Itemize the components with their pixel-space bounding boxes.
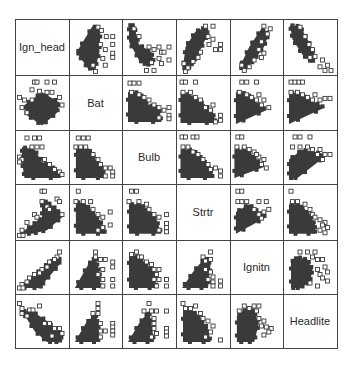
data-point [179,169,183,173]
data-point [56,218,60,222]
data-point [206,163,210,167]
data-point [129,335,133,339]
data-point [137,200,141,204]
data-point [160,62,164,66]
data-point [91,153,95,157]
data-point [257,304,261,308]
data-point [20,312,24,316]
data-point [235,145,239,149]
data-point [94,255,98,259]
data-point [127,210,131,214]
data-point [194,80,198,84]
data-point [142,95,146,99]
data-point [94,250,98,254]
data-point [21,164,25,168]
data-point [81,326,85,330]
data-point [81,232,85,236]
data-point [195,135,199,139]
data-point [235,334,239,338]
dense-point-cloud [25,92,60,125]
data-point [316,284,320,288]
data-point [45,80,49,84]
data-point [155,309,159,313]
data-point [247,65,251,69]
data-point [259,40,263,44]
data-point [247,148,251,152]
data-point [219,169,223,173]
data-point [98,258,102,262]
data-point [30,145,34,149]
data-point [111,55,115,59]
data-point [162,50,166,54]
data-point [311,98,315,102]
data-point [316,153,320,157]
data-point [255,309,259,313]
data-point [53,168,57,172]
data-point [20,106,24,110]
data-point [81,176,85,180]
data-point [151,120,155,124]
data-point [46,276,50,280]
data-point [152,213,156,217]
data-point [214,166,218,170]
data-point [39,285,43,289]
data-point [53,98,57,102]
scatter-cell [181,302,223,345]
data-point [36,332,40,336]
data-point [74,168,78,172]
data-point [20,228,24,232]
data-point [86,319,90,323]
data-point [308,207,312,211]
data-point [33,221,37,225]
data-point [60,173,64,177]
data-point [242,68,246,72]
data-point [101,215,105,219]
data-point [145,202,149,206]
data-point [91,207,95,211]
data-point [157,45,161,49]
data-point [18,302,22,306]
data-point [130,90,134,94]
data-point [242,145,246,149]
data-point [298,256,302,260]
data-point [179,98,183,102]
data-point [157,116,161,120]
data-point [262,51,266,55]
data-point [98,335,102,339]
data-point [326,270,330,274]
data-point [98,163,102,167]
data-point [97,268,101,272]
data-point [237,309,241,313]
data-point [219,118,223,122]
dense-point-cloud [289,150,328,179]
data-point [18,95,22,99]
scatter-cell [182,250,223,290]
data-point [108,210,112,214]
data-point [242,119,246,123]
data-point [135,250,139,254]
data-point [201,317,205,321]
data-point [296,286,300,290]
data-point [181,332,185,336]
data-point [296,90,300,94]
data-point [150,309,154,313]
data-point [54,267,58,271]
data-point [98,35,102,39]
data-point [101,278,105,282]
data-point [165,230,169,234]
data-point [165,284,169,288]
data-point [219,174,223,178]
data-point [111,174,115,178]
data-point [111,42,115,46]
data-point [191,150,195,154]
data-point [74,153,78,157]
data-point [289,267,293,271]
data-point [104,35,108,39]
data-point [43,322,47,326]
scatterplot-matrix: Ign_head Bat Bulb Strtr Ignitn Headlite [0,0,353,365]
data-point [147,302,151,306]
data-point [157,106,161,110]
data-point [58,200,62,204]
data-point [96,54,100,58]
data-point [294,232,298,236]
